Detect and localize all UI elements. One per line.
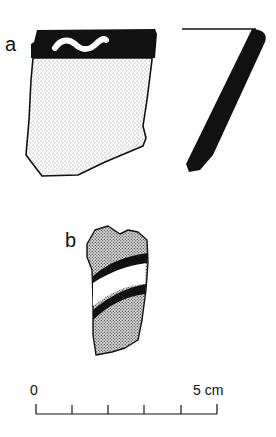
label-b: b [65,230,76,250]
scale-start-label: 0 [30,383,38,397]
sherd-a-body [26,58,152,176]
sherd-a-profile [182,29,266,172]
sherd-a [26,29,157,176]
label-a: a [5,34,16,54]
profile-section [186,29,266,172]
sherd-drawing [0,0,276,437]
scale-bar [36,404,217,414]
scale-end-label: 5 cm [193,383,223,397]
sherd-b [87,226,148,355]
